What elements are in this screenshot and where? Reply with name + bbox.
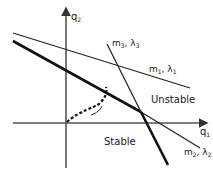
stable-region-label: Stable	[104, 136, 136, 147]
unstable-region-label: Unstable	[151, 94, 195, 105]
q1-axis-label: q1	[200, 126, 210, 138]
stability-diagram: q2 q1 m3, λ3 m1, λ1 m2, λ2 Unstable Stab…	[0, 0, 213, 172]
trajectory-path	[67, 87, 106, 122]
q2-axis-label: q2	[71, 11, 81, 23]
line-m3-label: m3, λ3	[112, 38, 140, 49]
line-m1	[13, 33, 190, 88]
line-m1-label: m1, λ1	[149, 64, 177, 75]
line-m2-thick	[13, 41, 141, 112]
line-m2-label: m2, λ2	[184, 147, 212, 158]
trajectory-arrow	[91, 106, 102, 115]
